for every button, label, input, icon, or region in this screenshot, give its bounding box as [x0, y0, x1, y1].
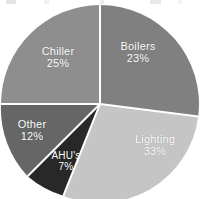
- pie-slice-boilers[interactable]: [100, 5, 199, 117]
- pie-chart-graphic: [0, 0, 206, 199]
- scan-artifact: [100, 0, 104, 4]
- scan-artifact: [150, 0, 161, 4]
- scan-artifact: [178, 0, 182, 4]
- scan-artifact: [6, 0, 16, 4]
- pie-slice-chiller[interactable]: [1, 5, 100, 104]
- scan-artifact: [44, 0, 49, 4]
- pie-chart-figure: Boilers 23% Chiller 25% Lighting 33% Oth…: [0, 0, 206, 199]
